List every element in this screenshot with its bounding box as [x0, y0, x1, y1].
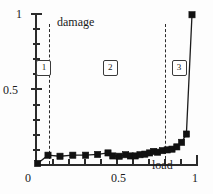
data-point — [189, 12, 195, 18]
data-point — [57, 153, 63, 159]
data-point — [110, 153, 116, 159]
data-point — [35, 160, 41, 166]
data-point — [179, 139, 185, 145]
data-point — [116, 153, 122, 159]
data-series — [0, 0, 213, 194]
series-polyline — [38, 15, 192, 164]
data-point — [83, 152, 89, 158]
data-point — [45, 152, 51, 158]
damage-load-chart: 1 0.5 0 0.5 1 damage load 1 2 3 — [0, 0, 213, 194]
data-point — [183, 131, 189, 137]
data-point — [95, 151, 101, 157]
series-markers — [35, 12, 196, 167]
data-point — [70, 152, 76, 158]
